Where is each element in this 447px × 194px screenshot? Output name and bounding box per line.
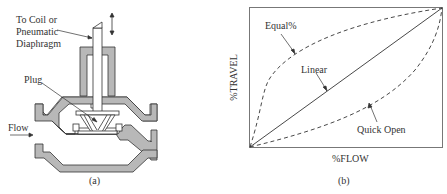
figure-canvas: [0, 0, 447, 194]
valve-stem: [93, 28, 102, 113]
travel-arrow-icon: [110, 13, 114, 35]
flow-label: Flow: [8, 122, 29, 133]
plug-label: Plug: [24, 74, 42, 85]
equal-percent-label: Equal%: [265, 20, 297, 31]
x-axis-label: %FLOW: [332, 153, 369, 164]
linear-label: Linear: [301, 64, 327, 75]
caption-a: (a): [89, 175, 100, 186]
caption-b: (b): [338, 175, 350, 186]
actuator-label-line1: To Coil or: [16, 14, 57, 25]
y-axis-label: %TRAVEL: [228, 54, 239, 100]
actuator-label-line2: Pneumatic: [16, 26, 58, 37]
actuator-label-line3: Diaphragm: [16, 38, 61, 49]
quick-open-label: Quick Open: [357, 124, 406, 135]
actuator-leader: [57, 30, 92, 38]
